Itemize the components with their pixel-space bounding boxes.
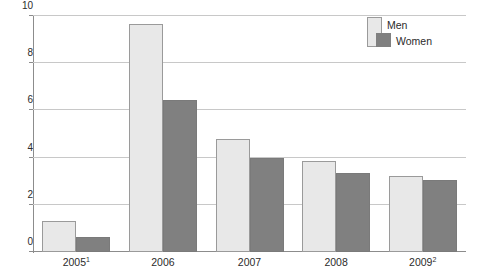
legend: Men Women: [367, 16, 467, 50]
x-label-footnote-2005: 1: [86, 256, 90, 263]
x-label-footnote-2009: 2: [432, 256, 436, 263]
bar-group: [302, 16, 370, 252]
legend-label-women: Women: [396, 35, 432, 47]
bar-men-2009: [389, 176, 423, 252]
bar-men-2006: [129, 24, 163, 252]
x-tick-label-2005: 20051: [33, 256, 120, 269]
bar-women-2005: [76, 237, 110, 252]
y-tick-label-10: 10: [7, 1, 33, 11]
bar-women-2009: [423, 180, 457, 252]
x-tick-label-2006: 2006: [120, 256, 207, 269]
x-axis-labels: 2005120062007200820092: [33, 256, 466, 276]
bar-men-2005: [42, 221, 76, 252]
y-tick-label-4: 4: [7, 143, 33, 153]
bar-women-2007: [250, 158, 284, 252]
bar-chart: 0246810 2005120062007200820092 Men Women: [0, 0, 477, 279]
bar-group: [42, 16, 110, 252]
x-tick-label-2008: 2008: [293, 256, 380, 269]
bar-men-2008: [302, 161, 336, 252]
x-tick-label-2007: 2007: [206, 256, 293, 269]
bar-women-2006: [163, 100, 197, 252]
y-tick-label-8: 8: [7, 48, 33, 58]
legend-label-men: Men: [387, 19, 407, 31]
legend-swatch-women: [376, 33, 391, 47]
bar-men-2007: [216, 139, 250, 252]
bar-group: [389, 16, 457, 252]
y-tick-label-0: 0: [7, 237, 33, 247]
y-tick-label-6: 6: [7, 95, 33, 105]
bar-group: [216, 16, 284, 252]
bar-women-2008: [336, 173, 370, 252]
y-tick-label-2: 2: [7, 190, 33, 200]
y-axis: 0246810: [0, 16, 33, 252]
plot-area: [33, 16, 466, 252]
x-tick-label-2009: 20092: [379, 256, 466, 269]
bar-group: [129, 16, 197, 252]
